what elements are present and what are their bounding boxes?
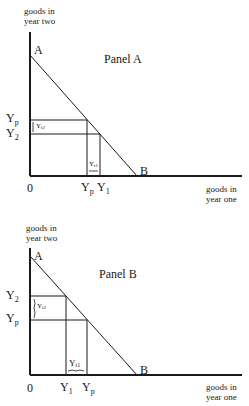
panel-a-x-axis-label: goods in year one xyxy=(206,184,237,204)
tick-sub: p xyxy=(15,118,19,127)
panel-a-x-tick-y1: Y1 xyxy=(97,181,110,196)
tick-base: Y xyxy=(6,126,15,140)
panel-a-y-tick-y2: Y2 xyxy=(6,127,19,142)
panel-a-budget-line xyxy=(30,55,137,176)
panel-b-bracket-x-label: Yt1 xyxy=(69,359,80,368)
tick-sub: p xyxy=(15,318,19,327)
panel-a-point-a: A xyxy=(34,44,43,56)
panel-b-bracket-x xyxy=(68,370,84,371)
tick-sub: 2 xyxy=(15,133,19,142)
bracket-sub: t2 xyxy=(41,125,45,130)
tick-base: Y xyxy=(6,311,15,325)
panel-a-y-axis-label: goods in year two xyxy=(24,6,55,26)
tick-base: Y xyxy=(60,380,69,394)
panel-a-origin: 0 xyxy=(27,182,33,194)
panel-a-title: Panel A xyxy=(104,53,142,65)
panel-b-bracket-y xyxy=(34,299,35,318)
panel-b-x-axis-label: goods in year one xyxy=(206,382,237,402)
bracket-sub: t2 xyxy=(42,305,46,310)
panel-b-origin: 0 xyxy=(27,382,33,394)
panel-b-bracket-y-label: Yt2 xyxy=(37,303,46,310)
tick-sub: 1 xyxy=(106,187,110,196)
panel-a-y-tick-yp: Yp xyxy=(6,112,19,127)
panel-b-point-a: A xyxy=(34,250,43,262)
tick-sub: 2 xyxy=(15,295,19,304)
tick-base: Y xyxy=(6,111,15,125)
bracket-sub: t1 xyxy=(76,362,81,368)
panel-b-x-axis-label-line1: goods in xyxy=(206,382,237,392)
panel-a-x-axis-label-line2: year one xyxy=(206,194,237,204)
panel-a-x-tick-yp: Yp xyxy=(81,181,94,196)
panel-b-y-axis-label-line1: goods in xyxy=(26,223,57,233)
panel-b-title: Panel B xyxy=(99,268,137,280)
panel-b-x-axis-label-line2: year one xyxy=(206,392,237,402)
panel-b-y-tick-yp: Yp xyxy=(6,312,19,327)
panel-a-bracket-x-label: Yt1 xyxy=(89,161,98,168)
panel-b-y-axis-label-line2: year two xyxy=(26,233,57,243)
tick-base: Y xyxy=(81,180,90,194)
tick-base: Y xyxy=(97,180,106,194)
panel-a-y-axis-label-line1: goods in xyxy=(24,6,55,16)
tick-sub: 1 xyxy=(69,387,73,396)
panel-a-point-b: B xyxy=(140,165,148,177)
panel-b-x-tick-yp: Yp xyxy=(82,381,95,396)
panel-a-bracket-y-label: Yt2 xyxy=(36,123,45,130)
panel-a-x-axis-label-line1: goods in xyxy=(206,184,237,194)
tick-sub: p xyxy=(90,187,94,196)
tick-base: Y xyxy=(6,288,15,302)
panel-b-point-b: B xyxy=(140,364,148,376)
panel-b-x-tick-y1: Y1 xyxy=(60,381,73,396)
tick-sub: p xyxy=(91,387,95,396)
panel-b-y-axis-label: goods in year two xyxy=(26,223,57,243)
panel-b-y-tick-y2: Y2 xyxy=(6,289,19,304)
panel-a-y-axis-label-line2: year two xyxy=(24,16,55,26)
bracket-sub: t1 xyxy=(94,163,98,168)
tick-base: Y xyxy=(82,380,91,394)
